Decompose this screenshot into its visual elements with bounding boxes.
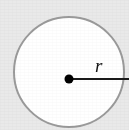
figure-canvas: r: [0, 0, 129, 130]
geometry-figure: r: [0, 0, 129, 130]
circle-shape: [14, 17, 124, 127]
center-dot: [65, 75, 74, 84]
radius-label: r: [95, 55, 103, 76]
